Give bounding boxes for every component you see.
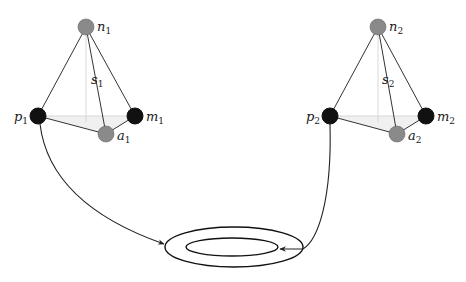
label-a1: a1 (117, 128, 131, 145)
label-p2: p2 (306, 109, 320, 126)
tetrahedron-1: n1 p1 m1 a1 s1 (14, 19, 164, 145)
label-p1: p1 (14, 109, 28, 126)
label-a2: a2 (408, 128, 422, 145)
node-n2 (370, 19, 386, 35)
ring (165, 227, 303, 267)
node-a2 (389, 126, 405, 142)
inner-ellipse (186, 238, 278, 256)
node-m1 (127, 108, 143, 124)
arrow-p2-to-ring (280, 124, 330, 249)
node-m2 (418, 108, 434, 124)
edge-n2-p2 (330, 27, 378, 116)
tetrahedron-2: n2 p2 m2 a2 s2 (306, 19, 455, 145)
diagram-canvas: n1 p1 m1 a1 s1 n2 p2 m2 a2 s2 (0, 0, 466, 282)
label-n1: n1 (97, 19, 111, 36)
label-m2: m2 (437, 109, 455, 126)
label-m1: m1 (146, 109, 164, 126)
label-n2: n2 (389, 19, 403, 36)
label-s1: s1 (91, 72, 103, 89)
label-s2: s2 (382, 72, 394, 89)
node-a1 (98, 126, 114, 142)
node-p1 (30, 108, 46, 124)
node-n1 (78, 19, 94, 35)
edge-n1-p1 (38, 27, 86, 116)
arrow-p1-to-ring (40, 124, 164, 244)
node-p2 (322, 108, 338, 124)
